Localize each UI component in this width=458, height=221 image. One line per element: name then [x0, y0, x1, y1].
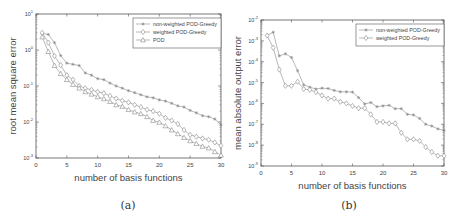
legend: non-weighted POD-Greedyweighted POD-Gree…	[356, 24, 444, 46]
series-diamond	[265, 33, 446, 158]
figure-b-output-error-chart: 05101520253010-910-810-710-610-510-410-3…	[229, 0, 458, 221]
legend-label: weighted POD-Greedy	[153, 29, 207, 35]
y-tick-label: 10-2	[23, 117, 33, 125]
series-line	[42, 37, 221, 155]
x-tick-label: 15	[125, 162, 132, 168]
x-tick-label: 10	[94, 162, 101, 168]
caption-b: (b)	[329, 199, 369, 212]
x-tick-label: 25	[187, 162, 194, 168]
y-axis-label: root mean square error	[7, 37, 18, 134]
y-tick-label: 10-8	[248, 140, 258, 148]
x-tick-label: 5	[290, 170, 294, 176]
x-tick-label: 20	[156, 162, 163, 168]
x-tick-label: 10	[319, 170, 326, 176]
x-tick-label: 20	[380, 170, 387, 176]
legend: non-weighted POD-Greedyweighted POD-Gree…	[133, 18, 221, 48]
legend-label: non-weighted POD-Greedy	[153, 21, 217, 27]
legend-label: POD	[153, 37, 165, 43]
y-tick-label: 10-3	[248, 36, 258, 44]
x-tick-label: 30	[441, 170, 448, 176]
series-line	[42, 33, 221, 146]
y-tick-label: 10-5	[248, 78, 258, 86]
y-tick-label: 10-4	[248, 57, 258, 65]
x-axis-label: number of basis functions	[74, 172, 183, 183]
series-line	[267, 36, 444, 156]
y-tick-label: 101	[25, 9, 34, 17]
x-tick-label: 15	[349, 170, 356, 176]
y-tick-label: 10-6	[248, 98, 258, 106]
figure-a-rmse-chart: 05101520253010-310-210-1100101number of …	[0, 0, 229, 221]
y-tick-label: 100	[25, 45, 34, 53]
y-tick-label: 10-3	[23, 153, 33, 161]
caption-a: (a)	[108, 199, 148, 212]
x-tick-label: 0	[259, 170, 263, 176]
x-tick-label: 0	[34, 162, 38, 168]
x-tick-label: 25	[410, 170, 417, 176]
legend-label: non-weighted POD-Greedy	[376, 27, 440, 33]
series-line	[267, 32, 444, 130]
chart-a-svg: 05101520253010-310-210-1100101number of …	[0, 0, 229, 200]
y-tick-label: 10-2	[248, 15, 258, 23]
y-tick-label: 10-9	[248, 161, 258, 169]
x-tick-label: 5	[65, 162, 69, 168]
y-axis-label: mean absolute output error	[232, 36, 243, 150]
x-tick-label: 30	[218, 162, 225, 168]
y-tick-label: 10-1	[23, 81, 33, 89]
y-tick-label: 10-7	[248, 119, 258, 127]
legend-label: weighted POD-Greedy	[376, 35, 430, 41]
x-axis-label: number of basis functions	[298, 180, 407, 191]
chart-b-svg: 05101520253010-910-810-710-610-510-410-3…	[229, 0, 458, 200]
